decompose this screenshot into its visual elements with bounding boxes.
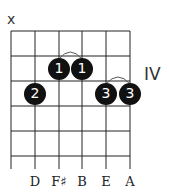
- fret-position-label: IV: [144, 64, 161, 84]
- finger-label: 3: [126, 85, 135, 101]
- note-label: F♯: [51, 174, 66, 189]
- note-label: E: [101, 174, 111, 189]
- note-label: B: [77, 174, 87, 189]
- chord-grid: [0, 0, 169, 196]
- finger-label: 2: [31, 85, 40, 101]
- finger-label: 3: [102, 85, 111, 101]
- note-label: D: [30, 174, 40, 189]
- finger-label: 1: [55, 60, 64, 76]
- note-label: A: [125, 174, 134, 189]
- finger-label: 1: [78, 60, 87, 76]
